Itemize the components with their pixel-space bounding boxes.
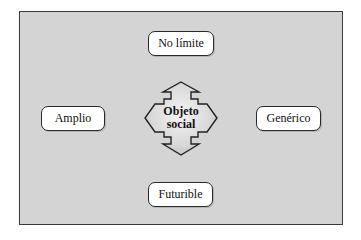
- center-label-line2: social: [151, 118, 211, 131]
- center-label: Objeto social: [151, 105, 211, 131]
